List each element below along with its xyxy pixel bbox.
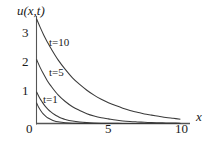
y-tick-label-2: 2 — [22, 55, 29, 68]
y-tick-label-1: 1 — [22, 84, 29, 97]
y-axis-label: u(x,t) — [17, 4, 45, 17]
curve-label-t5: t=5 — [49, 67, 64, 78]
x-axis-label: x — [196, 110, 202, 123]
curve-label-t1: t=1 — [43, 94, 58, 105]
x-tick-label-0: 0 — [26, 122, 33, 135]
x-tick-label-5: 5 — [105, 122, 112, 135]
x-tick-label-10: 10 — [175, 122, 188, 135]
curve-label-t10: t=10 — [49, 37, 69, 48]
y-tick-label-3: 3 — [22, 26, 29, 39]
figure-container: u(x,t) x 3 2 1 0 5 10 t=10 t=5 t=1 — [0, 0, 214, 142]
